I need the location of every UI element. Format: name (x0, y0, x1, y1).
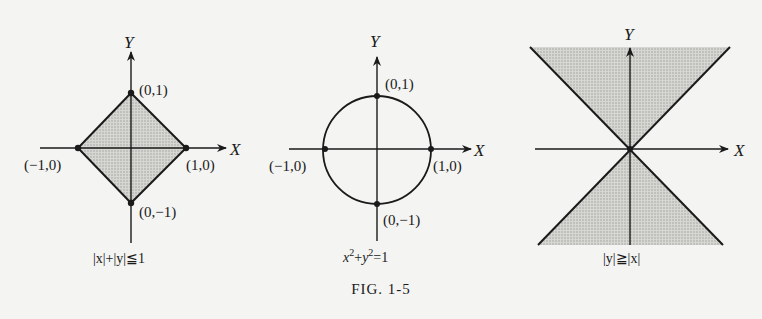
caption: |y|≧|x| (603, 251, 640, 266)
point-left (322, 146, 328, 152)
point-top (374, 93, 380, 99)
y-axis-label: Y (124, 33, 135, 52)
y-axis-label: Y (624, 25, 635, 44)
point-label: (1,0) (186, 157, 215, 174)
x-axis-label: X (733, 141, 745, 160)
point-right (183, 145, 189, 151)
caption: |x|+|y|≦1 (93, 251, 145, 266)
figure-label: FIG. 1-5 (0, 281, 762, 298)
point-label: (1,0) (433, 158, 462, 175)
point-label: (0,1) (385, 76, 414, 93)
point-right (428, 146, 434, 152)
figure-canvas: Y X (0,1) (1,0) (0,−1) (−1,0) |x|+|y|≦1 … (0, 0, 762, 319)
x-axis-label: X (473, 141, 485, 160)
x-axis-label: X (229, 140, 241, 159)
point-bottom (374, 201, 380, 207)
panel-circle: Y X (0,1) (1,0) (0,−1) (−1,0) x2+y2=1 (269, 32, 485, 265)
point-label: (0,−1) (383, 212, 420, 229)
point-label: (0,1) (139, 82, 168, 99)
origin-point (627, 146, 633, 152)
point-bottom (128, 200, 134, 206)
caption: x2+y2=1 (342, 247, 388, 265)
point-label: (−1,0) (269, 158, 306, 175)
point-label: (0,−1) (139, 204, 176, 221)
point-label: (−1,0) (24, 157, 61, 174)
y-axis-label: Y (370, 32, 381, 51)
point-left (75, 145, 81, 151)
panel-double-cone: Y X |y|≧|x| (530, 25, 745, 266)
panel-diamond: Y X (0,1) (1,0) (0,−1) (−1,0) |x|+|y|≦1 (24, 33, 241, 266)
point-top (128, 90, 134, 96)
